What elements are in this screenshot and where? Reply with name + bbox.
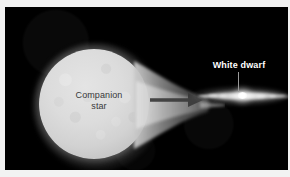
white-dwarf-core [237, 92, 248, 99]
white-dwarf-leader-line [238, 72, 239, 92]
figure-frame: White dwarf Companion star [0, 0, 290, 177]
sky-panel: White dwarf Companion star [5, 7, 288, 170]
